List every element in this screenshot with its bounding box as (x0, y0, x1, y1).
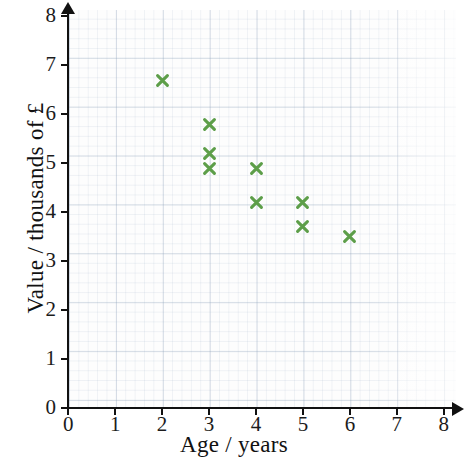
data-point (295, 219, 310, 234)
y-tick-7 (61, 64, 69, 66)
scatter-chart: 012345678 012345678 Age / years Value / … (0, 0, 468, 462)
y-tick-6 (61, 113, 69, 115)
data-point (202, 117, 217, 132)
y-tick-8 (61, 15, 69, 17)
y-tick-2 (61, 309, 69, 311)
data-point (342, 229, 357, 244)
y-axis-line (67, 10, 69, 409)
data-point (295, 195, 310, 210)
y-axis-title: Value / thousands of £ (23, 8, 49, 408)
data-point (202, 146, 217, 161)
data-point (155, 73, 170, 88)
x-axis-title: Age / years (0, 432, 468, 458)
y-tick-3 (61, 260, 69, 262)
data-point (249, 161, 264, 176)
y-axis-arrow-icon (61, 2, 75, 14)
y-tick-5 (61, 162, 69, 164)
data-point (202, 161, 217, 176)
y-tick-4 (61, 211, 69, 213)
data-point (249, 195, 264, 210)
y-tick-1 (61, 358, 69, 360)
